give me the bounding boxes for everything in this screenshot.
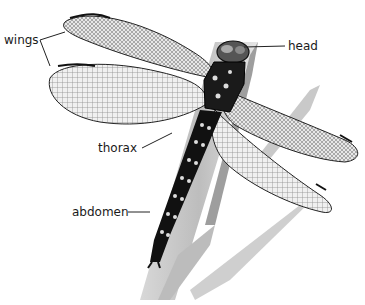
label-head: head xyxy=(288,40,318,52)
label-abdomen: abdomen xyxy=(72,206,129,218)
wing-lower-left xyxy=(49,64,206,124)
dragonfly-diagram: wings head thorax abdomen xyxy=(0,0,365,305)
label-wings: wings xyxy=(4,34,39,46)
dragonfly-head xyxy=(217,41,249,63)
wings-leader-lower xyxy=(40,40,50,66)
label-thorax: thorax xyxy=(98,142,137,154)
wings-leader-upper xyxy=(40,32,65,40)
thorax-leader xyxy=(142,133,172,148)
